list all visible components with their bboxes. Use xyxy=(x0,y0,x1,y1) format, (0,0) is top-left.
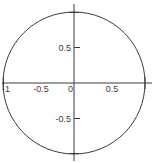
y-tick-label-pos-half: 0.5 xyxy=(58,44,71,53)
plot-canvas xyxy=(0,0,154,163)
y-tick-label-neg-half: -0.5 xyxy=(55,115,71,124)
unit-circle-plot: -1 -0.5 0 0.5 0.5 -0.5 xyxy=(0,0,154,163)
x-tick-label-neg-one: -1 xyxy=(2,85,10,94)
x-tick-label-pos-half: 0.5 xyxy=(106,85,119,94)
x-tick-label-neg-half: -0.5 xyxy=(33,85,49,94)
origin-label: 0 xyxy=(68,85,73,94)
